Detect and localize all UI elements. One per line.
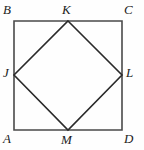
- vertex-label-d: D: [124, 132, 133, 145]
- vertex-label-m: M: [61, 133, 72, 146]
- outer-square-abcd: [14, 21, 122, 130]
- vertex-label-b: B: [3, 3, 11, 16]
- vertex-label-c: C: [124, 3, 133, 16]
- vertex-label-l: L: [126, 66, 133, 79]
- diagram-canvas: [0, 0, 144, 150]
- geometry-figure: B K C J L A M D: [0, 0, 144, 150]
- vertex-label-k: K: [62, 3, 71, 16]
- vertex-label-j: J: [3, 66, 9, 79]
- inner-square-jklm: [14, 21, 122, 130]
- vertex-label-a: A: [3, 132, 11, 145]
